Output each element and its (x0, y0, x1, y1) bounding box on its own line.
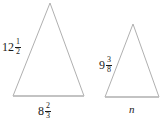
fraction: 3 8 (106, 56, 112, 74)
left-triangle-side-label: 12 1 2 (2, 38, 21, 56)
right-triangle-base-label: n (129, 104, 135, 115)
left-triangle-outline (13, 3, 84, 96)
right-triangle (105, 24, 159, 97)
whole-number: 8 (38, 105, 44, 117)
fraction-denominator: 2 (15, 47, 21, 56)
triangles-drawing (0, 0, 164, 122)
whole-number: 12 (2, 41, 14, 53)
fraction: 2 3 (45, 102, 51, 120)
fraction-denominator: 3 (45, 111, 51, 120)
fraction-numerator: 1 (15, 38, 21, 46)
whole-number: 9 (99, 59, 105, 71)
mixed-number: 8 2 3 (38, 102, 51, 120)
similar-triangles-figure: 12 1 2 8 2 3 9 3 8 n (0, 0, 164, 122)
right-triangle-outline (105, 24, 159, 97)
left-triangle (13, 3, 84, 96)
mixed-number: 12 1 2 (2, 38, 21, 56)
fraction-numerator: 2 (45, 102, 51, 110)
fraction-denominator: 8 (106, 65, 112, 74)
right-triangle-side-label: 9 3 8 (99, 56, 112, 74)
fraction: 1 2 (15, 38, 21, 56)
mixed-number: 9 3 8 (99, 56, 112, 74)
left-triangle-base-label: 8 2 3 (38, 102, 51, 120)
fraction-numerator: 3 (106, 56, 112, 64)
